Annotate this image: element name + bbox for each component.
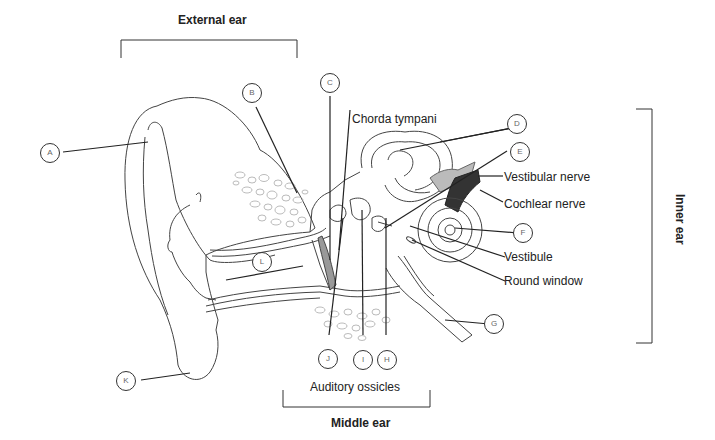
- label-auditory-ossicles: Auditory ossicles: [310, 380, 400, 394]
- label-chorda-tympani: Chorda tympani: [352, 112, 437, 126]
- marker-k: K: [116, 371, 136, 391]
- malleus: [330, 205, 346, 221]
- marker-d: D: [507, 114, 527, 134]
- marker-c: C: [320, 73, 340, 93]
- marker-e: E: [510, 142, 530, 162]
- label-vestibular-nerve: Vestibular nerve: [504, 170, 590, 184]
- marker-b: B: [242, 83, 262, 103]
- marker-h: H: [377, 350, 397, 370]
- marker-g: G: [484, 314, 504, 334]
- region-label-external-ear: External ear: [178, 13, 247, 27]
- marker-a: A: [40, 143, 60, 163]
- incus: [350, 198, 370, 220]
- region-label-inner-ear: Inner ear: [673, 194, 687, 245]
- label-vestibule: Vestibule: [504, 250, 553, 264]
- marker-i: I: [353, 350, 373, 370]
- label-cochlear-nerve: Cochlear nerve: [504, 197, 585, 211]
- marker-l: L: [252, 252, 272, 272]
- label-round-window: Round window: [504, 274, 583, 288]
- round-window: [406, 236, 417, 244]
- marker-j: J: [318, 349, 338, 369]
- marker-f: F: [513, 223, 533, 243]
- inner-ear-bracket: [636, 109, 652, 343]
- eustachian-tube: [386, 256, 472, 342]
- tympanic-cavity: [310, 172, 360, 290]
- external-ear-bracket: [121, 40, 297, 58]
- ear-illustration: [0, 0, 715, 440]
- region-label-middle-ear: Middle ear: [331, 416, 390, 430]
- auricle-outline: [125, 97, 315, 379]
